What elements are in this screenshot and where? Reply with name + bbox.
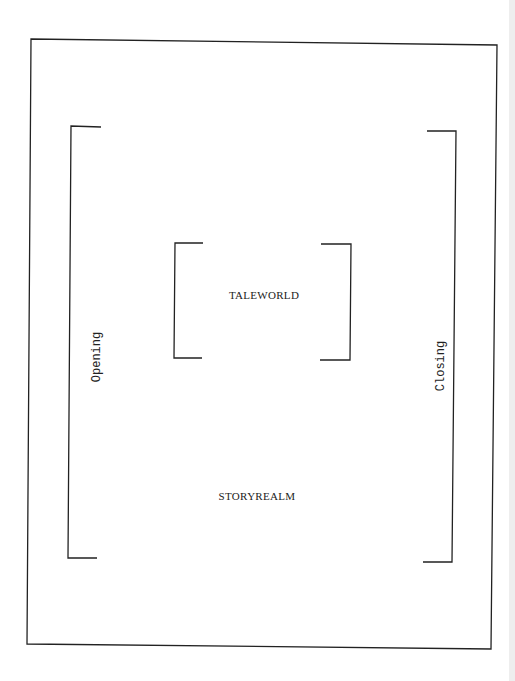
taleworld-left-bracket [174,243,203,358]
taleworld-right-bracket [320,244,351,360]
closing-label: Closing [434,341,448,391]
taleworld-label: TALEWORLD [229,289,299,301]
opening-label: Opening [90,332,104,382]
storyrealm-label: STORYREALM [219,490,296,502]
